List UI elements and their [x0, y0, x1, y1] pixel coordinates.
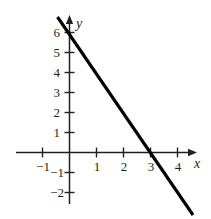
- x-tick-label-4: 4: [168, 160, 188, 173]
- x-tick-label-3: 3: [141, 160, 161, 173]
- line-graph-figure: −1 1 2 3 4 6 5 4 3 2 1 −1 −2 y x: [0, 0, 211, 219]
- x-tick-label-1: 1: [87, 160, 107, 173]
- y-axis-arrow-icon: [66, 15, 73, 24]
- x-tick-label-2: 2: [114, 160, 134, 173]
- x-axis-label: x: [194, 157, 200, 171]
- y-tick-label-6: 6: [38, 26, 60, 39]
- y-tick-label-4: 4: [38, 66, 60, 79]
- y-tick-label--1: −1: [42, 166, 64, 179]
- y-tick-label--2: −2: [42, 186, 64, 199]
- y-axis-label: y: [76, 17, 82, 31]
- y-tick-label-3: 3: [38, 86, 60, 99]
- y-tick-label-2: 2: [38, 106, 60, 119]
- y-tick-label-1: 1: [38, 126, 60, 139]
- coordinate-plane-svg: [0, 0, 211, 219]
- y-tick-label-5: 5: [38, 46, 60, 59]
- y-axis: [66, 15, 73, 204]
- plotted-line: [58, 17, 194, 215]
